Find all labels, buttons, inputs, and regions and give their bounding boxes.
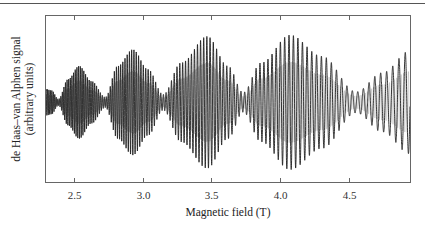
x-tick-label: 2.5 bbox=[68, 189, 82, 201]
x-tick-label: 4.0 bbox=[274, 189, 288, 201]
x-axis-label: Magnetic field (T) bbox=[186, 206, 271, 218]
oscillation-signal bbox=[46, 35, 410, 169]
y-axis-label-line1: de Haas–van Alphen signal bbox=[10, 14, 23, 184]
y-axis-label: de Haas–van Alphen signal (arbitrary uni… bbox=[10, 14, 36, 184]
y-axis-label-line2: (arbitrary units) bbox=[23, 14, 36, 184]
x-tick-label: 3.5 bbox=[205, 189, 219, 201]
x-tick-label: 4.5 bbox=[343, 189, 357, 201]
x-tick-label: 3.0 bbox=[137, 189, 151, 201]
